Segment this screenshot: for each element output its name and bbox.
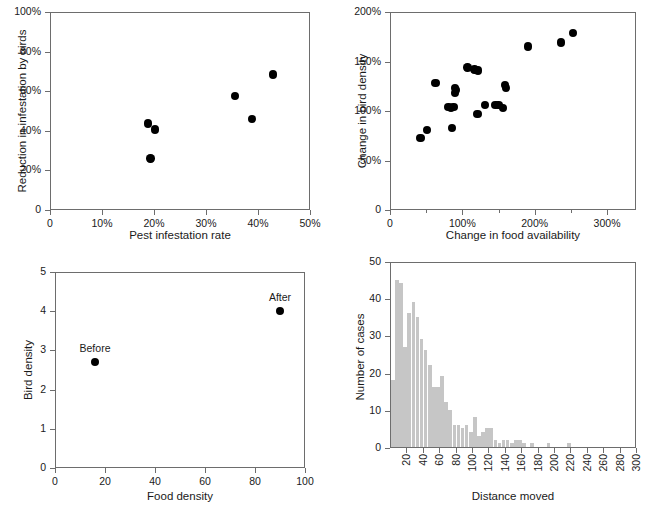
panel-d-ytick-label: 40 (327, 292, 381, 304)
panel-c-ytick (50, 429, 55, 430)
panel-b-xtick-label: 100% (432, 217, 492, 229)
panel-a-data-point (146, 154, 154, 162)
panel-a-data-point (269, 70, 277, 78)
panel-d-ytick (385, 374, 390, 375)
panel-a-ytick-label: 100% (0, 5, 41, 17)
panel-c-xtick (255, 468, 256, 473)
panel-b-xlabel: Change in food availability (380, 229, 646, 241)
panel-d-xtick (505, 448, 506, 453)
panel-d-xtick-label: 160 (515, 454, 527, 494)
panel-b-xtick-minor (426, 210, 427, 213)
panel-b-data-point (474, 66, 482, 74)
panel-a-xtick-label: 10% (72, 217, 132, 229)
panel-d-xtick-label: 40 (417, 454, 429, 494)
panel-d-xtick-label: 100 (466, 454, 478, 494)
panel-b-xtick-label: 300% (577, 217, 637, 229)
panel-a-ylabel: Reduction in infestation by birds (16, 12, 28, 210)
panel-b-data-point (557, 38, 565, 46)
panel-d-xtick (406, 448, 407, 453)
panel-d-xtick-label: 120 (482, 454, 494, 494)
panel-b-ytick-label: 50% (327, 154, 381, 166)
panel-c-xtick (155, 468, 156, 473)
panel-b-ytick-label: 200% (327, 5, 381, 17)
panel-a: Pest infestation rate Reduction in infes… (0, 0, 330, 250)
panel-c-ytick-label: 4 (0, 304, 46, 316)
panel-d-ytick-label: 20 (327, 367, 381, 379)
panel-a-ytick-label: 40% (0, 124, 41, 136)
panel-a-ytick-label: 80% (0, 45, 41, 57)
panel-d-xtick (472, 448, 473, 453)
panel-a-data-point (248, 115, 256, 123)
panel-a-ytick (45, 12, 50, 13)
panel-c-ytick (50, 311, 55, 312)
panel-a-xtick (102, 210, 103, 215)
panel-d-ytick-label: 0 (327, 441, 381, 453)
multi-panel-figure: Pest infestation rate Reduction in infes… (0, 0, 647, 514)
panel-a-xtick-label: 0 (20, 217, 80, 229)
panel-a-ytick (45, 91, 50, 92)
panel-b-ytick-label: 0 (327, 203, 381, 215)
panel-b-xtick-label: 0 (360, 217, 420, 229)
panel-a-ytick (45, 170, 50, 171)
panel-d-ytick-label: 30 (327, 329, 381, 341)
panel-b-ytick (385, 12, 390, 13)
panel-c-xtick (205, 468, 206, 473)
panel-d-xtick-label: 220 (564, 454, 576, 494)
panel-d-ytick (385, 336, 390, 337)
panel-a-ytick-label: 20% (0, 163, 41, 175)
panel-d-xtick (456, 448, 457, 453)
panel-a-xtick (258, 210, 259, 215)
panel-d-xtick (570, 448, 571, 453)
panel-d-xtick (488, 448, 489, 453)
panel-a-xtick-label: 40% (228, 217, 288, 229)
panel-d-xtick (538, 448, 539, 453)
panel-c-point-label: Before (60, 342, 130, 354)
panel-d-xtick (423, 448, 424, 453)
panel-c-ytick-label: 1 (0, 422, 46, 434)
panel-b-ytick (385, 161, 390, 162)
histogram-bar (567, 443, 571, 447)
panel-b-plot-area (390, 12, 636, 210)
panel-d-xtick-label: 200 (548, 454, 560, 494)
panel-b-ytick-label: 150% (327, 55, 381, 67)
panel-d-xtick (439, 448, 440, 453)
panel-b-xtick (390, 210, 391, 215)
panel-c-ytick-label: 2 (0, 383, 46, 395)
panel-c-ytick-label: 0 (0, 461, 46, 473)
panel-c: Food density Bird density 01234502040608… (0, 250, 340, 514)
panel-c-ytick (50, 272, 55, 273)
panel-d-xtick (521, 448, 522, 453)
panel-d-ytick (385, 448, 390, 449)
histogram-bar (522, 443, 526, 447)
histogram-bar (530, 443, 534, 447)
panel-c-point-label: After (245, 291, 315, 303)
panel-d-xtick-label: 20 (400, 454, 412, 494)
panel-a-xlabel: Pest infestation rate (50, 229, 310, 241)
panel-c-ylabel: Bird density (22, 272, 34, 468)
panel-c-ytick-label: 3 (0, 343, 46, 355)
panel-d-xtick-label: 260 (597, 454, 609, 494)
panel-b-ytick-label: 100% (327, 104, 381, 116)
panel-d-xtick-label: 80 (450, 454, 462, 494)
panel-c-xtick (305, 468, 306, 473)
panel-b-xtick-minor (571, 210, 572, 213)
panel-a-xtick (206, 210, 207, 215)
panel-c-xtick-label: 100 (275, 475, 335, 487)
panel-a-xtick-label: 30% (176, 217, 236, 229)
panel-b-data-point (416, 134, 424, 142)
panel-d-plot-area (390, 262, 636, 448)
panel-b-data-point (449, 103, 457, 111)
panel-a-ytick (45, 131, 50, 132)
panel-d: Distance moved Number of cases 010203040… (330, 250, 647, 514)
panel-a-xtick (50, 210, 51, 215)
panel-b-data-point (423, 126, 431, 134)
panel-d-bars (391, 263, 635, 447)
panel-d-xtick-label: 60 (433, 454, 445, 494)
panel-a-ytick (45, 52, 50, 53)
panel-b-xtick (462, 210, 463, 215)
panel-b-xtick-label: 200% (505, 217, 565, 229)
panel-d-xtick (587, 448, 588, 453)
panel-d-xtick-label: 180 (532, 454, 544, 494)
panel-d-xtick-label: 280 (614, 454, 626, 494)
panel-d-xtick-label: 240 (581, 454, 593, 494)
